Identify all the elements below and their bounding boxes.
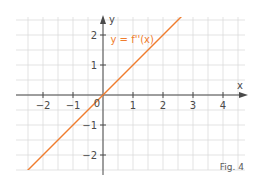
function-line-path [16,0,244,181]
y-tick-label: 2 [91,30,97,41]
x-tick-label: 3 [190,100,196,111]
y-axis-label: y [109,14,115,25]
x-tick-label: 4 [220,100,226,111]
x-tick-label: −2 [36,100,51,111]
figure-caption: Fig. 4 [220,162,244,172]
x-axis-label: x [237,80,243,91]
y-tick-label: −1 [82,120,97,131]
x-tick-label: 1 [130,100,136,111]
x-axis-arrow-icon [239,92,248,98]
function-label: y = f''(x) [111,34,154,45]
y-axis-arrow-icon [100,15,106,24]
function-line [16,0,244,181]
y-tick-label: −2 [82,150,97,161]
x-tick-label: −1 [66,100,81,111]
y-tick-label: 1 [91,60,97,71]
function-graph: −2−11234−2−1120xy y = f''(x) Fig. 4 [0,0,261,181]
x-tick-label: 2 [160,100,166,111]
origin-label: 0 [94,98,100,109]
